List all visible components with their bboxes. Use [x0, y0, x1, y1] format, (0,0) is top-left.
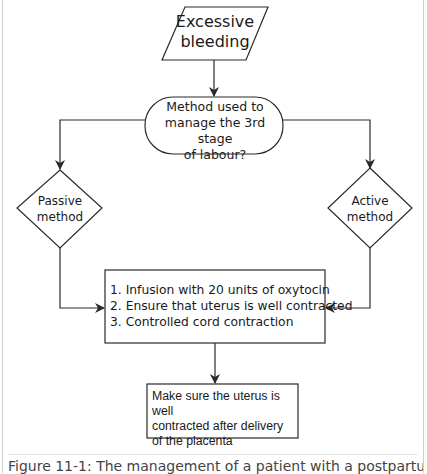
final-label-line: Make sure the uterus is well: [152, 389, 298, 419]
start-label-line: bleeding: [170, 32, 260, 52]
active-method-label: Active method: [328, 193, 412, 225]
arrow-decision-to-active: [283, 120, 370, 168]
decision-label: Method used to manage the 3rd stage of l…: [148, 99, 282, 163]
step-item: 2. Ensure that uterus is well contracted: [110, 298, 324, 314]
final-label-line: of the placenta: [152, 434, 298, 449]
figure-caption: Figure 11-1: The management of a patient…: [8, 458, 423, 474]
final-step-label: Make sure the uterus is well contracted …: [152, 389, 298, 449]
passive-method-label: Passive method: [17, 193, 103, 225]
decision-label-line: Method used to: [148, 99, 282, 115]
step-item: 3. Controlled cord contraction: [110, 314, 324, 330]
start-label: Excessive bleeding: [170, 12, 260, 52]
step-item: 1. Infusion with 20 units of oxytocin: [110, 282, 324, 298]
decision-label-line: manage the 3rd stage: [148, 115, 282, 147]
caption-divider: [8, 454, 418, 455]
active-label-line: method: [328, 209, 412, 225]
active-label-line: Active: [328, 193, 412, 209]
decision-label-line: of labour?: [148, 147, 282, 163]
start-label-line: Excessive: [170, 12, 260, 32]
passive-label-line: Passive: [17, 193, 103, 209]
arrow-passive-to-steps: [60, 248, 104, 308]
steps-list: 1. Infusion with 20 units of oxytocin 2.…: [110, 282, 324, 330]
final-label-line: contracted after delivery: [152, 419, 298, 434]
arrow-decision-to-passive: [60, 120, 145, 169]
passive-label-line: method: [17, 209, 103, 225]
